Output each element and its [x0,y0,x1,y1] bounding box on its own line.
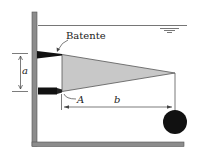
triangular-gate [62,55,175,92]
weight-ball [163,110,187,134]
label-batente: Batente [66,30,106,41]
floor [32,142,184,147]
leader-batente-arrow [57,48,60,53]
gate-diagram: a b A Batente [0,0,197,155]
label-a: a [22,65,28,76]
label-A: A [76,94,84,105]
hinge-tip [57,88,62,94]
water-level-icon [160,29,179,33]
leader-batente [58,40,68,50]
leader-A [64,94,76,99]
left-wall [32,12,37,146]
hinge-block [38,88,57,95]
stop-block [37,51,62,59]
label-b: b [114,94,120,105]
